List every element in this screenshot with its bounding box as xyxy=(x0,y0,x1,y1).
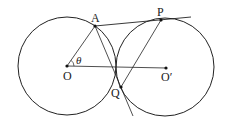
point-q xyxy=(119,85,122,88)
point-o xyxy=(65,64,68,67)
label-q: Q xyxy=(111,86,120,100)
label-theta: θ xyxy=(76,54,82,66)
label-o: O xyxy=(63,69,72,83)
label-a: A xyxy=(91,11,100,25)
geometry-diagram: A P O O′ Q θ xyxy=(0,0,228,125)
label-p: P xyxy=(157,5,164,19)
angle-arc-theta xyxy=(71,60,74,66)
line-aq xyxy=(95,26,133,116)
tangent-line-ap xyxy=(95,17,191,26)
label-o-prime: O′ xyxy=(161,70,173,84)
diagram-canvas: A P O O′ Q θ xyxy=(0,0,228,125)
line-pq xyxy=(121,20,161,87)
